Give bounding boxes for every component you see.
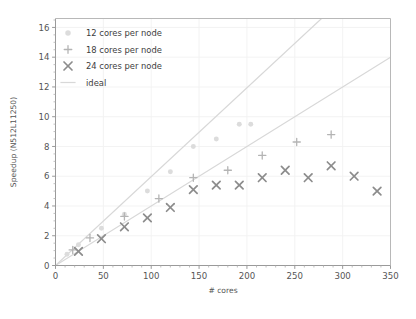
data-point	[65, 252, 70, 257]
y-tick-label: 8	[44, 142, 49, 152]
x-axis-label: # cores	[208, 286, 237, 295]
y-tick-label: 4	[44, 201, 49, 211]
y-tick-label: 6	[44, 171, 49, 181]
y-tick-label: 2	[44, 231, 49, 241]
y-tick-label: 14	[39, 52, 50, 62]
y-axis-label: Speedup (N512L11250)	[9, 97, 18, 187]
data-point	[99, 226, 104, 231]
data-point	[214, 137, 219, 142]
x-tick-label: 0	[53, 271, 58, 281]
data-point	[145, 189, 150, 194]
chart-canvas: 0501001502002503003502468101214160# core…	[0, 0, 416, 319]
y-tick-label: 10	[39, 112, 50, 122]
x-tick-label: 100	[143, 271, 159, 281]
x-tick-label: 200	[239, 271, 255, 281]
data-point	[191, 144, 196, 149]
x-tick-label: 350	[382, 271, 398, 281]
legend-marker-1	[65, 30, 71, 36]
data-point	[76, 242, 81, 247]
x-tick-label: 50	[98, 271, 109, 281]
plot-background	[56, 19, 391, 266]
legend-label-1: 12 cores per node	[86, 28, 162, 38]
data-point	[248, 122, 253, 127]
x-tick-label: 250	[287, 271, 303, 281]
y-tick-label: 16	[39, 23, 50, 33]
legend-label-3: 24 cores per node	[86, 61, 162, 71]
legend-label-4: ideal	[86, 78, 106, 88]
speedup-scatter-chart: 0501001502002503003502468101214160# core…	[0, 0, 416, 319]
x-tick-label: 150	[191, 271, 207, 281]
y-tick-label: 12	[39, 82, 50, 92]
y-tick-label: 0	[44, 261, 49, 271]
data-point	[168, 169, 173, 174]
x-tick-label: 300	[334, 271, 350, 281]
legend-label-2: 18 cores per node	[86, 45, 162, 55]
data-point	[237, 122, 242, 127]
